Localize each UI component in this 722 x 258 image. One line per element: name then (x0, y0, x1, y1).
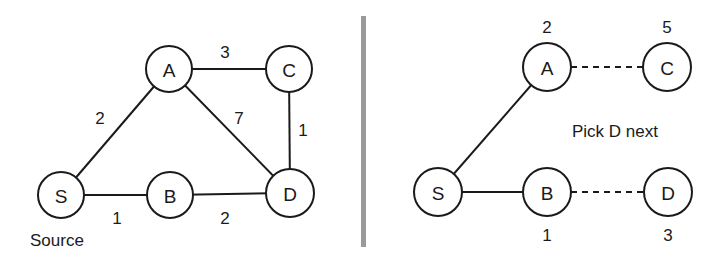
dist-a: 2 (542, 18, 551, 37)
edge-a-d (169, 69, 290, 193)
node-s: S (38, 172, 84, 218)
node-label: A (541, 58, 554, 79)
weight-a-c: 3 (220, 43, 229, 62)
node-c: C (266, 46, 312, 92)
weight-b-d: 2 (220, 209, 229, 228)
edge-s-a (61, 69, 169, 195)
node-c: C (643, 43, 691, 91)
weight-s-a: 2 (95, 109, 104, 128)
node-label: S (432, 183, 445, 204)
node-b: B (147, 172, 193, 218)
node-label: B (541, 183, 554, 204)
node-label: C (282, 60, 296, 81)
right-graph: S A C B D 2 5 1 3 Pick D next (414, 18, 692, 245)
dist-b: 1 (542, 226, 551, 245)
node-label: D (661, 183, 675, 204)
weight-a-d: 7 (234, 109, 243, 128)
node-a: A (523, 43, 571, 91)
node-label: A (163, 60, 176, 81)
source-caption: Source (30, 231, 84, 250)
node-label: S (55, 186, 68, 207)
weight-c-d: 1 (298, 121, 307, 140)
node-b: B (523, 168, 571, 216)
node-label: C (660, 58, 674, 79)
node-s: S (414, 168, 462, 216)
node-label: B (164, 186, 177, 207)
pick-next-annotation: Pick D next (572, 122, 658, 141)
dijkstra-diagram: 2 3 7 1 1 2 S A C B D Source (0, 0, 722, 258)
node-a: A (146, 46, 192, 92)
weight-s-b: 1 (112, 209, 121, 228)
node-label: D (283, 184, 297, 205)
dist-c: 5 (662, 18, 671, 37)
divider (361, 16, 366, 247)
left-graph: 2 3 7 1 1 2 S A C B D Source (30, 43, 314, 251)
node-d: D (644, 168, 692, 216)
node-d: D (266, 169, 314, 217)
dist-d: 3 (663, 226, 672, 245)
